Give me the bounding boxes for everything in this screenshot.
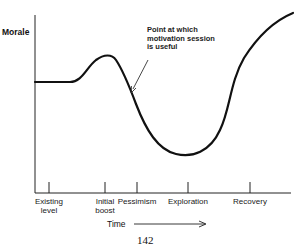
y-axis-label: Morale (2, 27, 29, 37)
annotation-line-3: is useful (147, 43, 215, 52)
tick-label-line-1: Initial (91, 197, 119, 206)
page-number: 142 (137, 234, 154, 246)
tick-label-initial-boost: Initial boost (91, 197, 119, 215)
x-axis-label: Time (107, 219, 126, 229)
annotation-text: Point at which motivation session is use… (147, 26, 215, 52)
tick-label-line-2: boost (91, 206, 119, 215)
annotation-arrow-head (131, 86, 136, 93)
tick-label-pessimism: Pessimism (117, 197, 157, 206)
tick-label-recovery: Recovery (231, 197, 269, 206)
tick-label-line-1: Existing (33, 197, 65, 206)
tick-label-line-2: level (33, 206, 65, 215)
tick-label-exploration: Exploration (166, 197, 210, 206)
tick-label-existing-level: Existing level (33, 197, 65, 215)
annotation-arrow-line (133, 60, 148, 89)
